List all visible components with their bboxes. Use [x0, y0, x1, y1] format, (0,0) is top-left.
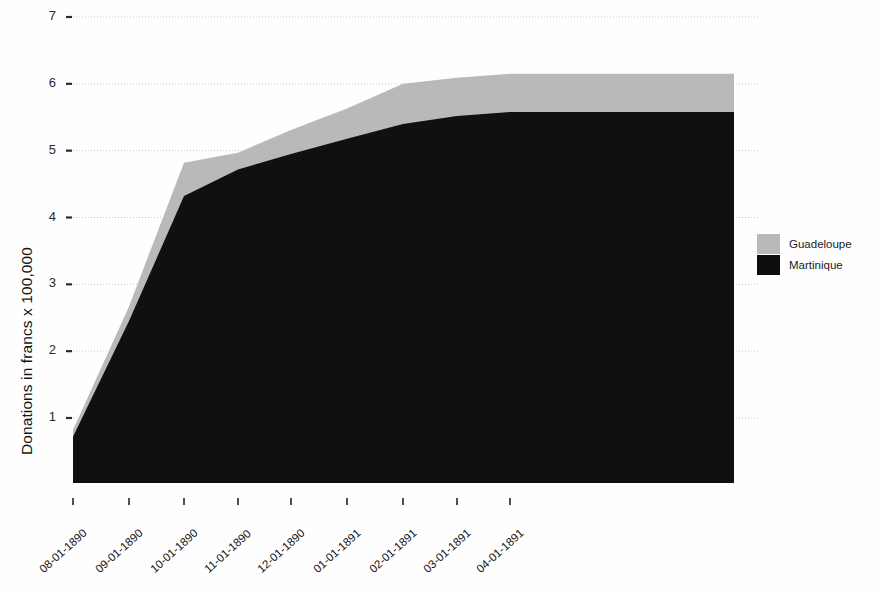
y-tick-label: 4 — [34, 209, 56, 224]
stacked-area-plot — [0, 0, 882, 596]
x-tick-marks — [73, 498, 510, 505]
y-tick-label: 3 — [34, 275, 56, 290]
legend-swatch-martinique — [757, 255, 780, 275]
y-tick-label: 5 — [34, 142, 56, 157]
chart-legend: Guadeloupe Martinique — [757, 233, 877, 275]
area-series — [73, 74, 734, 483]
legend-swatch-guadeloupe — [757, 234, 780, 254]
area-martinique — [73, 112, 734, 483]
y-tick-label: 2 — [34, 342, 56, 357]
y-tick-label: 6 — [34, 75, 56, 90]
legend-item-guadeloupe[interactable]: Guadeloupe — [757, 233, 877, 254]
y-tick-label: 1 — [34, 409, 56, 424]
legend-label-guadeloupe: Guadeloupe — [789, 238, 852, 250]
y-tick-label: 7 — [34, 8, 56, 23]
chart-figure: Donations in francs x 100,000 1234567 08… — [0, 0, 882, 596]
legend-label-martinique: Martinique — [789, 259, 843, 271]
legend-item-martinique[interactable]: Martinique — [757, 254, 877, 275]
y-tick-marks — [66, 17, 72, 418]
